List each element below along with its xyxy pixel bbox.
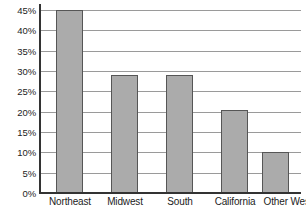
y-tick-label: 0% [0,188,36,199]
bar-chart: 45% 40% 35% 30% 25% 20% 15% 10% 5% 0% No… [0,0,306,219]
bar-other-west[interactable] [262,152,289,193]
y-tick-label: 5% [0,167,36,178]
x-tick-label-south: South [167,196,192,207]
x-axis-tick-labels: Northeast Midwest South California Other… [40,196,306,216]
y-tick-label: 10% [0,147,36,158]
x-tick-label-northeast: Northeast [49,196,91,207]
y-tick-label: 15% [0,127,36,138]
y-tick-label: 30% [0,66,36,77]
x-axis-line [39,192,301,194]
y-axis-line [39,4,41,194]
y-tick-label: 35% [0,45,36,56]
y-tick-label: 25% [0,86,36,97]
bar-series [40,0,301,193]
bar-south[interactable] [166,75,193,193]
x-tick-label-california: California [215,196,256,207]
bar-california[interactable] [221,110,248,193]
y-tick-label: 45% [0,5,36,16]
y-tick-label: 40% [0,25,36,36]
bar-midwest[interactable] [111,75,138,193]
x-tick-label-other-west: Other West [264,196,306,207]
x-tick-label-midwest: Midwest [107,196,143,207]
y-tick-label: 20% [0,106,36,117]
bar-northeast[interactable] [56,10,83,193]
